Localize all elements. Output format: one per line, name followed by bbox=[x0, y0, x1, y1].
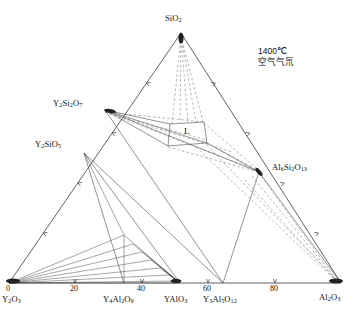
vertex-label-sio2-text: SiO2 bbox=[165, 13, 182, 23]
liquid-region-label: L bbox=[184, 126, 190, 136]
axis-tick-60: 60 bbox=[203, 284, 211, 293]
triangle-outline bbox=[9, 33, 341, 283]
phase-point-markers bbox=[6, 33, 343, 284]
compound-label-y2si2o7-text: Y2Si2O7 bbox=[53, 98, 82, 108]
compound-label-y2si2o7: Y2Si2O7 bbox=[53, 99, 82, 109]
compound-label-y3al5o12: Y3Al5O12 bbox=[203, 295, 237, 305]
compound-label-al6si2o13: Al6Si2O13 bbox=[272, 163, 307, 173]
yttria-fan-tie-lines bbox=[9, 153, 180, 283]
compound-label-al6si2o13-text: Al6Si2O13 bbox=[272, 162, 307, 172]
compound-label-y2sio5-text: Y2SiO5 bbox=[35, 139, 61, 149]
solid-tie-lines bbox=[84, 110, 341, 283]
compound-label-yalo3: YAlO3 bbox=[164, 295, 187, 305]
compound-label-y4al2o9-text: Y4Al2O9 bbox=[103, 294, 134, 304]
dashed-liquidus-lines bbox=[105, 36, 338, 282]
condition-temperature: 1400℃ bbox=[258, 46, 294, 57]
compound-label-yalo3-text: YAlO3 bbox=[164, 294, 187, 304]
axis-tick-20: 20 bbox=[70, 284, 78, 293]
vertex-label-al2o3: Al2O3 bbox=[319, 293, 340, 303]
vertex-label-y2o3: Y2O3 bbox=[2, 295, 21, 305]
compound-label-y2sio5: Y2SiO5 bbox=[35, 140, 61, 150]
compound-label-y4al2o9: Y4Al2O9 bbox=[103, 295, 134, 305]
condition-atmosphere: 空气气氘 bbox=[258, 57, 294, 69]
axis-tick-40: 40 bbox=[137, 284, 145, 293]
axis-tick-80: 80 bbox=[270, 284, 278, 293]
axis-tick-marks bbox=[43, 82, 318, 283]
compound-label-y3al5o12-text: Y3Al5O12 bbox=[203, 294, 237, 304]
ternary-phase-diagram: SiO2 Y2O3 Al2O3 Y2Si2O7 Y2SiO5 Al6Si2O13… bbox=[0, 0, 353, 322]
vertex-label-sio2: SiO2 bbox=[165, 14, 182, 24]
vertex-label-al2o3-text: Al2O3 bbox=[319, 292, 340, 302]
axis-tick-0: 0 bbox=[6, 284, 10, 293]
conditions-annotation: 1400℃ 空气气氘 bbox=[258, 46, 294, 69]
vertex-label-y2o3-text: Y2O3 bbox=[2, 294, 21, 304]
ternary-diagram-canvas bbox=[0, 0, 353, 322]
